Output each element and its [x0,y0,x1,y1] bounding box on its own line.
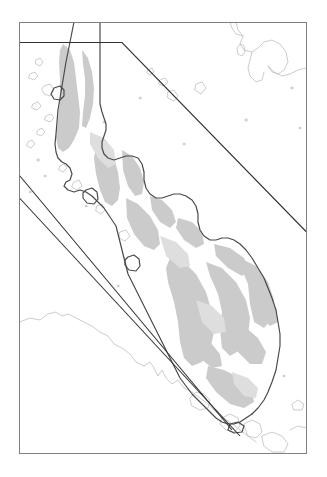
map-canvas [0,0,327,477]
map-graphic [0,0,327,477]
